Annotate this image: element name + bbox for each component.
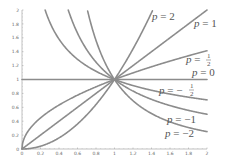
label-p-1: p = 1 xyxy=(193,17,217,29)
label-p-neg-half: p = − xyxy=(158,84,182,96)
label-p-2: p = 2 xyxy=(151,10,175,22)
y-tick-label: 2 xyxy=(16,8,19,13)
x-tick-label: 1.6 xyxy=(166,151,173,156)
y-tick-label: 0.4 xyxy=(12,119,19,124)
x-tick-label: 1.4 xyxy=(148,151,155,156)
x-tick-label: 0.6 xyxy=(74,151,81,156)
label-p-neg-2: p = −2 xyxy=(164,127,194,139)
x-tick-label: 0.8 xyxy=(92,151,99,156)
y-tick-label: 1.8 xyxy=(12,22,19,27)
label-p-half-num: 1 xyxy=(207,52,211,60)
y-tick-label: 0.8 xyxy=(12,91,19,96)
label-p-neg-1: p = −1 xyxy=(166,113,196,125)
label-p-neg-half-den: 2 xyxy=(190,90,194,98)
x-tick-label: 2 xyxy=(206,151,209,156)
x-tick-label: 0.2 xyxy=(37,151,44,156)
y-tick-label: 1.6 xyxy=(12,35,19,40)
y-tick-label: 1.2 xyxy=(12,63,19,68)
y-tick-label: 0.2 xyxy=(12,133,19,138)
y-tick-label: 0.6 xyxy=(12,105,19,110)
x-tick-label: 1.2 xyxy=(129,151,136,156)
x-tick-label: 1.8 xyxy=(185,151,192,156)
curve-labels: p = 2 p = 1 p = 1 2 p = 0 p = − 1 2 p = … xyxy=(151,10,217,139)
label-p-0: p = 0 xyxy=(191,66,215,78)
y-tick-label: 0 xyxy=(16,147,19,152)
y-tick-label: 1.4 xyxy=(12,49,19,54)
x-tick-label: 0 xyxy=(21,151,24,156)
y-tick-label: 1 xyxy=(16,77,19,82)
x-tick-label: 1 xyxy=(113,151,116,156)
x-tick-label: 0.4 xyxy=(55,151,62,156)
power-functions-chart: 00.20.40.60.811.21.41.61.82 00.20.40.60.… xyxy=(0,0,241,167)
label-p-half: p = xyxy=(185,53,200,65)
label-p-neg-half-num: 1 xyxy=(190,82,194,90)
